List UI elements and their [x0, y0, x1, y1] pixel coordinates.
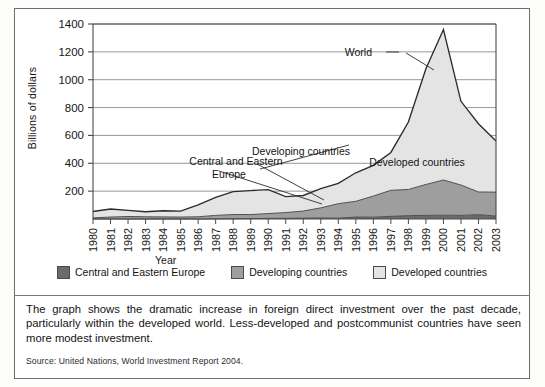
x-tick-label: 1999: [420, 228, 432, 252]
y-tick-label: 200: [65, 185, 84, 197]
legend-swatch: [231, 266, 244, 279]
x-tick-label: 2003: [490, 228, 502, 252]
y-tick-label: 1000: [58, 74, 84, 86]
source-text: Source: United Nations, World Investment…: [26, 356, 521, 366]
x-tick-label: 1984: [157, 228, 169, 252]
x-tick-label: 2002: [472, 228, 484, 252]
x-tick-label: 1996: [367, 228, 379, 252]
legend-swatch: [373, 266, 386, 279]
chart-area: Billions of dollars Year 200400600800100…: [14, 8, 530, 291]
x-tick-label: 1985: [175, 228, 187, 252]
x-tick-label: 1991: [280, 228, 292, 252]
x-tick-label: 1992: [297, 228, 309, 252]
x-tick-label: 1994: [332, 228, 344, 252]
x-tick-label: 1989: [245, 228, 257, 252]
x-tick-labels-group: 1980198119821983198419851986198719881989…: [87, 228, 502, 252]
legend-label: Developed countries: [391, 266, 487, 278]
x-tick-label: 1987: [210, 228, 222, 252]
x-tick-label: 1980: [87, 228, 99, 252]
annotation-world: World: [345, 46, 372, 58]
x-tick-label: 1998: [402, 228, 414, 252]
caption-text: The graph shows the dramatic increase in…: [26, 302, 521, 345]
y-tick-label: 800: [65, 102, 84, 114]
x-tick-label: 1981: [105, 228, 117, 252]
x-tick-label: 2000: [437, 228, 449, 252]
x-tick-label: 1988: [227, 228, 239, 252]
x-tick-label: 1997: [385, 228, 397, 252]
y-tick-label: 1400: [58, 18, 84, 30]
caption-block: The graph shows the dramatic increase in…: [26, 302, 521, 366]
stacked-area-chart: 200400600800100012001400 198019811982198…: [14, 8, 530, 291]
annotation-central-eastern-europe-line1: Central and Eastern: [189, 155, 283, 167]
x-tick-label: 1983: [140, 228, 152, 252]
x-tick-label: 2001: [455, 228, 467, 252]
caption-divider: [14, 295, 530, 296]
y-tick-label: 600: [65, 129, 84, 141]
y-tick-label: 400: [65, 157, 84, 169]
annotation-developed-countries: Developed countries: [369, 156, 465, 168]
x-tick-label: 1982: [122, 228, 134, 252]
legend-entry: Developing countries: [231, 266, 347, 279]
y-tick-label: 1200: [58, 46, 84, 58]
legend-swatch: [57, 266, 70, 279]
x-tick-marks-group: [93, 219, 496, 224]
figure-container: Billions of dollars Year 200400600800100…: [0, 0, 545, 387]
legend-entry: Developed countries: [373, 266, 487, 279]
legend-label: Central and Eastern Europe: [75, 266, 205, 278]
x-tick-label: 1993: [315, 228, 327, 252]
x-tick-label: 1986: [192, 228, 204, 252]
legend-label: Developing countries: [249, 266, 347, 278]
y-tick-labels-group: 200400600800100012001400: [58, 18, 84, 197]
annotation-central-eastern-europe-line2: Europe: [212, 168, 246, 180]
x-tick-label: 1990: [262, 228, 274, 252]
legend-entry: Central and Eastern Europe: [57, 266, 205, 279]
chart-legend: Central and Eastern EuropeDeveloping cou…: [14, 262, 530, 282]
x-tick-label: 1995: [350, 228, 362, 252]
